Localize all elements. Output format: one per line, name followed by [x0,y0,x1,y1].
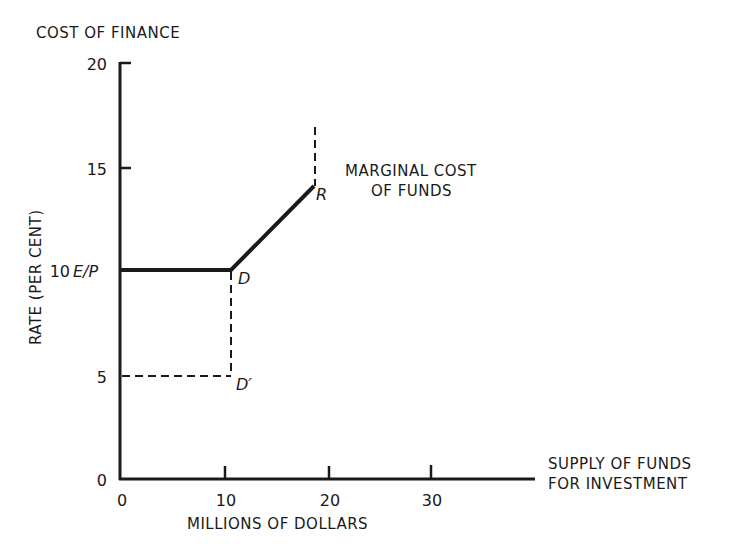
x-tick-label-20: 20 [320,491,340,510]
point-r-label: R [316,185,327,204]
x-axis-label-right-line1: SUPPLY OF FUNDS [548,455,692,473]
chart: COST OF FINANCE RATE (PER CENT) 0 5 10 E… [0,0,735,555]
y-tick-label-10: 10 [50,262,70,281]
x-tick-label-10: 10 [216,491,236,510]
curve-label-line2: OF FUNDS [371,182,452,200]
x-axis-label: MILLIONS OF DOLLARS [187,515,368,533]
chart-title: COST OF FINANCE [36,24,180,42]
y-tick-label-0: 0 [97,471,107,490]
y-axis-label: RATE (PER CENT) [27,209,45,345]
x-tick-label-30: 30 [422,491,442,510]
ep-annotation: E/P [73,262,99,281]
y-tick-label-15: 15 [87,160,107,179]
curve-label-line1: MARGINAL COST [345,162,477,180]
x-axis-label-right-line2: FOR INVESTMENT [548,475,688,493]
marginal-cost-curve [120,186,314,270]
x-tick-label-0: 0 [117,491,127,510]
y-tick-label-5: 5 [97,368,107,387]
point-d-label: D [238,269,250,288]
y-tick-label-20: 20 [87,55,107,74]
point-dprime-label: D′ [236,375,252,394]
